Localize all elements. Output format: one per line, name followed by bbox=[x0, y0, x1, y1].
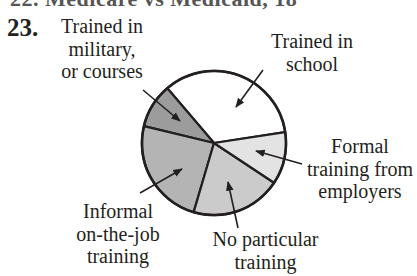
label-line: training from bbox=[300, 158, 417, 181]
label-line: military, bbox=[52, 38, 152, 61]
label-line: Trained in bbox=[262, 30, 362, 53]
label-line: Informal bbox=[68, 200, 168, 223]
label-line: training bbox=[68, 245, 168, 268]
label-line: training bbox=[203, 251, 328, 274]
label-no-particular: No particular training bbox=[203, 228, 328, 273]
label-line: or courses bbox=[52, 60, 152, 83]
label-line: school bbox=[262, 53, 362, 76]
label-line: Formal bbox=[300, 135, 417, 158]
label-line: on-the-job bbox=[68, 223, 168, 246]
label-formal: Formal training from employers bbox=[300, 135, 417, 203]
label-line: employers bbox=[300, 180, 417, 203]
label-line: Trained in bbox=[52, 15, 152, 38]
label-school: Trained in school bbox=[262, 30, 362, 75]
label-military: Trained in military, or courses bbox=[52, 15, 152, 83]
label-informal: Informal on-the-job training bbox=[68, 200, 168, 268]
label-line: No particular bbox=[203, 228, 328, 251]
figure: 22. Medicare vs Medicaid, 18 23. Trained… bbox=[0, 0, 417, 276]
